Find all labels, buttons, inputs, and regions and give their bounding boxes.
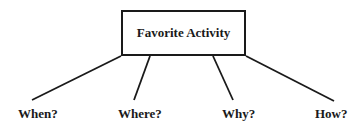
branch-why: Why? [222,106,255,122]
connector-where [134,56,150,100]
branch-how: How? [315,106,348,122]
branch-where: Where? [118,106,162,122]
connector-when [32,56,121,100]
connector-why [213,56,233,100]
root-node-label: Favorite Activity [137,25,231,41]
branch-when: When? [18,106,58,122]
connector-how [246,56,334,101]
root-node: Favorite Activity [121,10,246,56]
diagram-canvas: Favorite Activity When? Where? Why? How? [0,0,363,133]
